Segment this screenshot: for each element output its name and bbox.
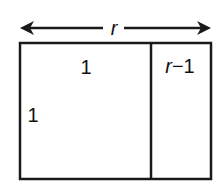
remainder-top-label: r−1 — [165, 55, 194, 77]
width-label: r — [111, 17, 119, 39]
remainder-rest: −1 — [172, 55, 195, 77]
golden-rectangle-diagram: r 1 1 r−1 — [0, 0, 222, 186]
square-top-label: 1 — [80, 56, 91, 78]
width-dimension-arrow: r — [20, 17, 211, 39]
square-side-label: 1 — [27, 104, 38, 126]
